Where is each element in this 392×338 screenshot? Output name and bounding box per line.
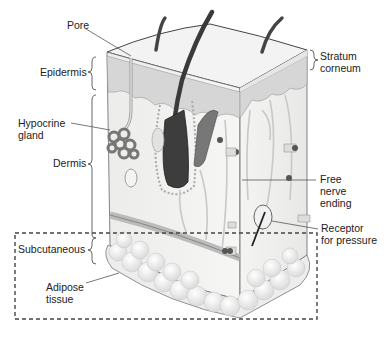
label-epidermis: Epidermis	[40, 67, 87, 79]
label-free-nerve-line1: Free	[320, 174, 342, 186]
label-stratum-line1: Stratum	[320, 51, 357, 63]
subcutaneous-bracket	[88, 238, 96, 264]
label-dermis: Dermis	[53, 158, 86, 170]
hair-follicle	[163, 110, 188, 188]
sebaceous-gland	[152, 128, 164, 152]
label-pore: Pore	[67, 20, 89, 32]
small-receptor	[125, 169, 137, 187]
label-receptor-line1: Receptor	[321, 223, 364, 235]
label-hypocrine-line1: Hypocrine	[18, 118, 65, 130]
label-free-nerve-line3: ending	[320, 198, 352, 210]
dermis-bracket	[88, 95, 96, 238]
stratum-bracket	[310, 50, 318, 70]
label-hypocrine-line2: gland	[18, 130, 44, 142]
label-adipose-line1: Adipose	[46, 282, 84, 294]
label-stratum-line2: corneum	[320, 63, 361, 75]
skin-diagram: Pore Epidermis Hypocrine gland Dermis Su…	[0, 0, 392, 338]
label-subcutaneous: Subcutaneous	[18, 244, 85, 256]
hypocrine-leader	[71, 123, 110, 130]
label-adipose-line2: tissue	[46, 294, 73, 306]
label-free-nerve-line2: nerve	[320, 186, 346, 198]
epidermis-bracket	[88, 57, 96, 90]
adipose-leader	[86, 273, 119, 283]
label-receptor-line2: for pressure	[321, 235, 377, 247]
